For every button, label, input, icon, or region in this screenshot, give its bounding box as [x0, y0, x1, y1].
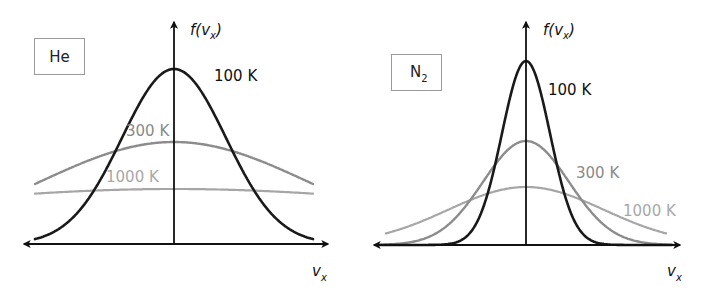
y-label-suffix: ) — [568, 21, 575, 39]
y-label-prefix: f(v — [543, 21, 564, 39]
curve-label-he-300k: 300 K — [126, 122, 170, 140]
y-axis-label-n2: f(vx) — [543, 21, 575, 41]
y-axis-label-he: f(vx) — [190, 21, 222, 41]
x-label-sub: x — [320, 272, 327, 283]
x-label-sub: x — [675, 272, 682, 283]
gas-label-he: He — [49, 48, 70, 66]
y-label-prefix: f(v — [190, 21, 211, 39]
panel-he: He f(vx) vx 100 K 300 K 1000 K — [24, 21, 328, 283]
curve-label-n2-100k: 100 K — [548, 81, 592, 99]
gas-label-box-he: He — [35, 39, 85, 75]
panel-n2: N2 f(vx) vx 100 K 300 K 1000 K — [374, 21, 682, 283]
curve-label-he-100k: 100 K — [214, 67, 258, 85]
gas-label-n2-main: N — [410, 63, 421, 81]
y-label-suffix: ) — [215, 21, 222, 39]
curve-label-n2-300k: 300 K — [576, 164, 620, 182]
gas-label-box-n2: N2 — [392, 55, 442, 91]
gas-label-n2-sub: 2 — [421, 73, 427, 84]
x-axis-label-he: vx — [312, 262, 327, 283]
curve-label-he-1000k: 1000 K — [106, 168, 160, 186]
maxwell-distribution-figure: He f(vx) vx 100 K 300 K 1000 K N2 f(vx) … — [0, 0, 711, 307]
x-axis-label-n2: vx — [667, 262, 682, 283]
curve-label-n2-1000k: 1000 K — [623, 202, 677, 220]
